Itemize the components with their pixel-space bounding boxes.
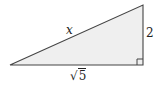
hypotenuse-label: x xyxy=(66,24,73,36)
triangle-shape xyxy=(10,5,143,65)
vertical-leg-label: 2 xyxy=(146,27,154,39)
sqrt-radicand: 5 xyxy=(78,68,87,83)
sqrt-symbol: √ xyxy=(70,69,78,83)
horizontal-leg-label: √5 xyxy=(70,70,86,82)
right-triangle-figure: x 2 √5 xyxy=(0,0,159,87)
